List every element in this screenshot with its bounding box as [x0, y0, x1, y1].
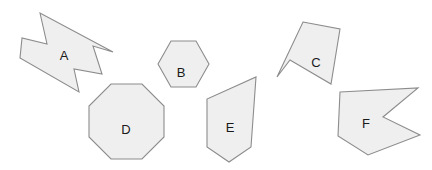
shape-group-c[interactable]: C: [277, 22, 340, 84]
shape-c-label: C: [311, 55, 320, 70]
shape-group-d[interactable]: D: [89, 84, 164, 159]
shape-f-label: F: [362, 116, 370, 131]
figure-canvas: A B C D E F: [0, 0, 432, 170]
shape-b-label: B: [177, 65, 186, 80]
shape-d-label: D: [121, 122, 130, 137]
shapes-diagram: A B C D E F: [0, 0, 432, 170]
shape-a-label: A: [60, 48, 69, 63]
shape-group-f[interactable]: F: [338, 88, 420, 155]
shape-group-e[interactable]: E: [207, 77, 256, 162]
shape-group-a[interactable]: A: [20, 13, 113, 92]
shape-c-polygon[interactable]: [277, 22, 340, 84]
shape-f-polygon[interactable]: [338, 88, 420, 155]
shape-group-b[interactable]: B: [158, 41, 209, 87]
shape-e-label: E: [226, 120, 235, 135]
